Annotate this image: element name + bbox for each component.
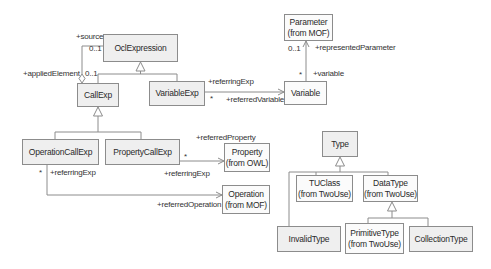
class-origin: (from MOF): [288, 28, 330, 39]
represented-parameter-role: +representedParameter: [315, 43, 396, 52]
class-name: VariableExp: [155, 88, 198, 99]
class-parameter[interactable]: Parameter (from MOF): [284, 14, 333, 41]
class-type[interactable]: Type: [322, 131, 358, 157]
source-role-label: +source: [76, 32, 103, 41]
referred-operation-role: +referredOperation: [157, 200, 221, 209]
class-name: Parameter: [290, 17, 328, 28]
referred-property-role: +referredProperty: [196, 133, 256, 142]
class-call-exp[interactable]: CallExp: [77, 83, 119, 107]
class-variable-exp[interactable]: VariableExp: [149, 81, 205, 106]
property-call-multiplicity: *: [184, 152, 187, 161]
class-name: Variable: [291, 88, 320, 99]
generalization-arrow-icon: [136, 62, 145, 71]
class-name: CollectionType: [415, 234, 468, 245]
class-name: PropertyCallExp: [113, 147, 171, 158]
generalization-arrow-icon: [388, 202, 397, 211]
property-call-referring-role: +referringExp: [164, 169, 210, 178]
class-property-call-exp[interactable]: PropertyCallExp: [105, 139, 180, 165]
class-name: TUClass: [309, 178, 340, 189]
class-variable[interactable]: Variable: [284, 81, 327, 105]
variable-role: +variable: [313, 69, 344, 78]
class-tu-class[interactable]: TUClass (from TwoUse): [296, 175, 353, 202]
generalization-arrow-icon: [336, 157, 345, 166]
applied-element-role-label: +appliedElement: [23, 69, 80, 78]
source-multiplicity: 0..1: [89, 44, 102, 53]
class-name: Type: [331, 139, 349, 150]
class-name: OperationCallExp: [29, 147, 92, 158]
class-name: InvalidType: [289, 234, 330, 245]
class-origin: (from OWL): [226, 158, 268, 169]
class-property[interactable]: Property (from OWL): [224, 143, 270, 172]
class-invalid-type[interactable]: InvalidType: [277, 226, 341, 252]
class-name: Property: [232, 147, 263, 158]
class-origin: (from MOF): [225, 200, 267, 211]
generalization-arrow-icon: [94, 107, 103, 116]
class-data-type[interactable]: DataType (from TwoUse): [363, 175, 418, 202]
represented-parameter-multiplicity: 0..1: [288, 44, 301, 53]
variable-exp-referring-role: +referringExp: [208, 77, 254, 86]
class-name: PrimitiveType: [350, 228, 398, 239]
class-name: CallExp: [84, 90, 112, 101]
class-ocl-expression[interactable]: OclExpression: [103, 34, 178, 62]
generalization-call-line: [55, 132, 141, 139]
class-origin: (from TwoUse): [364, 189, 417, 200]
class-name: OclExpression: [114, 43, 166, 54]
variable-multiplicity: *: [299, 70, 302, 79]
class-operation[interactable]: Operation (from MOF): [222, 185, 270, 214]
applied-element-multiplicity: 0..1: [85, 69, 98, 78]
variable-exp-multiplicity: *: [210, 94, 213, 103]
class-name: DataType: [373, 178, 408, 189]
class-primitive-type[interactable]: PrimitiveType (from TwoUse): [345, 223, 404, 254]
class-origin: (from TwoUse): [348, 239, 401, 250]
uml-class-diagram: OclExpression CallExp VariableExp Parame…: [0, 0, 491, 269]
operation-call-referring-role: +referringExp: [50, 168, 96, 177]
class-name: Operation: [228, 189, 264, 200]
class-collection-type[interactable]: CollectionType: [409, 226, 473, 252]
class-origin: (from TwoUse): [298, 189, 351, 200]
operation-call-multiplicity: *: [39, 168, 42, 177]
class-operation-call-exp[interactable]: OperationCallExp: [22, 139, 99, 165]
referred-variable-role: +referredVariable: [226, 95, 284, 104]
